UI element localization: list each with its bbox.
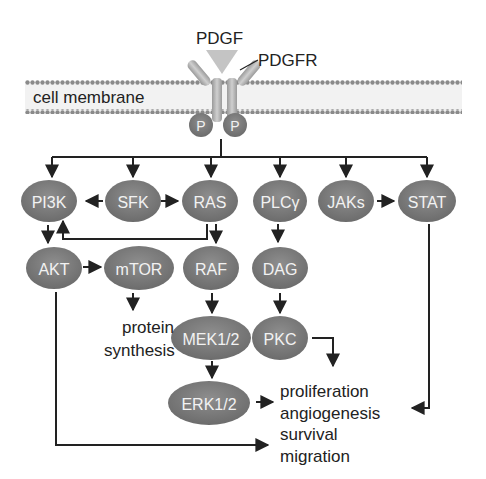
svg-text:ERK1/2: ERK1/2 <box>181 396 236 413</box>
svg-text:RAF: RAF <box>195 261 227 278</box>
node-pi3k: PI3K <box>21 180 77 222</box>
svg-text:STAT: STAT <box>408 194 447 211</box>
outcome-migration: migration <box>280 447 350 466</box>
svg-text:JAKs: JAKs <box>327 194 364 211</box>
node-mek: MEK1/2 <box>171 316 251 360</box>
synthesis-label: synthesis <box>104 341 175 360</box>
svg-text:SFK: SFK <box>117 194 148 211</box>
node-pkc: PKC <box>252 316 308 360</box>
node-plcy: PLCγ <box>253 180 307 222</box>
pdgf-label: PDGF <box>196 29 243 48</box>
node-erk: ERK1/2 <box>168 381 250 425</box>
svg-text:RAS: RAS <box>194 194 227 211</box>
node-mtor: mTOR <box>104 246 174 290</box>
node-sfk: SFK <box>105 180 161 222</box>
pdgf-ligand-icon <box>206 50 238 74</box>
pdgf-signaling-diagram: cell membrane PDGF PDGFR P P <box>0 0 486 479</box>
svg-text:PKC: PKC <box>264 331 297 348</box>
node-stat: STAT <box>398 180 456 222</box>
protein-label: protein <box>122 318 174 337</box>
outcome-angiogenesis: angiogenesis <box>280 404 380 423</box>
svg-text:P: P <box>230 118 239 134</box>
node-jaks: JAKs <box>318 180 374 222</box>
svg-text:DAG: DAG <box>263 261 298 278</box>
outcome-survival: survival <box>280 425 338 444</box>
svg-text:AKT: AKT <box>38 261 69 278</box>
node-ras: RAS <box>182 180 238 222</box>
node-akt: AKT <box>26 247 82 289</box>
outcome-proliferation: proliferation <box>280 382 369 401</box>
node-raf: RAF <box>183 246 239 290</box>
svg-text:MEK1/2: MEK1/2 <box>183 331 240 348</box>
membrane-label: cell membrane <box>33 88 145 107</box>
svg-text:PLCγ: PLCγ <box>260 194 299 211</box>
svg-text:mTOR: mTOR <box>116 261 163 278</box>
pdgfr-label: PDGFR <box>258 51 318 70</box>
svg-text:P: P <box>196 118 205 134</box>
node-dag: DAG <box>252 247 308 289</box>
svg-text:PI3K: PI3K <box>32 194 67 211</box>
